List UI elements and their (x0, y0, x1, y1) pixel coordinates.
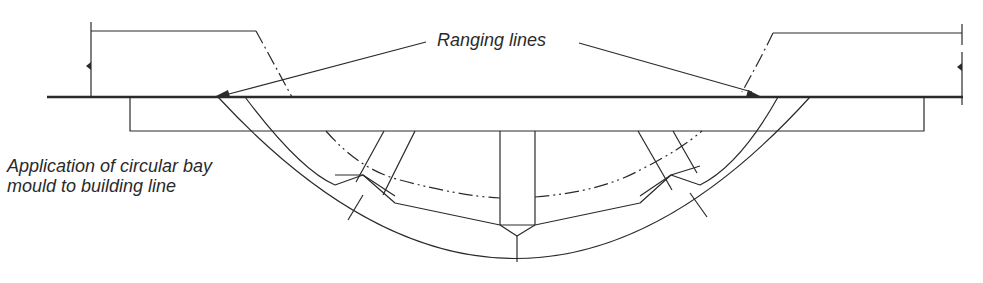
arrowhead-left-icon (214, 90, 230, 97)
wall-marker-icon (957, 63, 962, 71)
rib-joint-left (348, 195, 363, 220)
application-caption-line1: Application of circular bay (7, 156, 212, 176)
circular-bay-mould-diagram: Ranging lines Application of circular ba… (0, 0, 983, 283)
bay-curve-right (535, 131, 702, 197)
application-caption: Application of circular bay mould to bui… (7, 156, 212, 196)
application-caption-line2: mould to building line (7, 176, 212, 196)
ranging-line-leaders (214, 42, 762, 97)
wall-marker-icon (86, 62, 91, 70)
arrowhead-right-icon (746, 90, 762, 97)
right-wall (742, 24, 962, 105)
bay-curve-left (326, 131, 500, 198)
diagonal-strut-left (356, 131, 415, 195)
ranging-lines-label: Ranging lines (437, 30, 546, 50)
centre-struts (500, 131, 535, 225)
